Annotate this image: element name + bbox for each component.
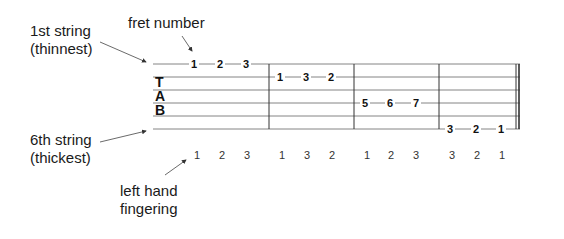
- svg-text:3: 3: [244, 149, 250, 161]
- svg-text:7: 7: [413, 97, 419, 109]
- svg-text:1: 1: [279, 149, 285, 161]
- svg-text:2: 2: [473, 123, 479, 135]
- svg-text:3: 3: [447, 123, 453, 135]
- first-string-arrow: [100, 42, 146, 62]
- tab-clef-b: B: [155, 102, 165, 118]
- svg-text:1: 1: [194, 149, 200, 161]
- measure-2: 1 3 2: [275, 71, 336, 83]
- sixth-string-arrow: [100, 131, 146, 142]
- svg-text:3: 3: [303, 71, 309, 83]
- strings: [153, 64, 520, 129]
- svg-text:1: 1: [364, 149, 370, 161]
- svg-text:2: 2: [217, 58, 223, 70]
- fingering-arrow: [165, 160, 186, 175]
- measure-1: 1 2 3: [189, 58, 251, 70]
- svg-text:1: 1: [498, 123, 504, 135]
- svg-text:1: 1: [277, 71, 283, 83]
- svg-text:2: 2: [219, 149, 225, 161]
- svg-text:2: 2: [474, 149, 480, 161]
- svg-text:5: 5: [362, 97, 368, 109]
- fret-number-arrow: [182, 36, 192, 51]
- fingering-row: 1 2 3 1 3 2 1 2 3 3 2 1: [194, 149, 505, 161]
- measure-4: 3 2 1: [445, 123, 506, 135]
- svg-text:3: 3: [413, 149, 419, 161]
- measure-3: 5 6 7: [360, 97, 421, 109]
- svg-text:3: 3: [243, 58, 249, 70]
- tablature-staff: T A B 1 2 3 1 3 2 5 6 7 3 2 1 1 2 3 1 3 …: [0, 0, 564, 239]
- svg-text:3: 3: [449, 149, 455, 161]
- svg-text:2: 2: [329, 149, 335, 161]
- svg-text:6: 6: [387, 97, 393, 109]
- svg-text:3: 3: [304, 149, 310, 161]
- svg-text:2: 2: [328, 71, 334, 83]
- svg-text:2: 2: [388, 149, 394, 161]
- svg-text:1: 1: [191, 58, 197, 70]
- svg-text:1: 1: [499, 149, 505, 161]
